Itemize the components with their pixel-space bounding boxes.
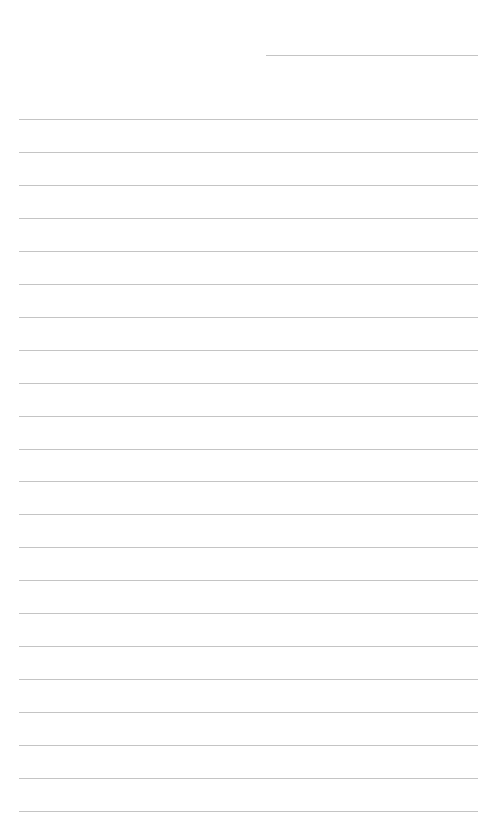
ruled-line bbox=[19, 152, 478, 153]
ruled-line bbox=[19, 119, 478, 120]
ruled-line bbox=[19, 449, 478, 450]
ruled-line bbox=[19, 284, 478, 285]
header-date-line bbox=[266, 55, 478, 56]
ruled-line bbox=[19, 185, 478, 186]
ruled-line bbox=[19, 481, 478, 482]
notebook-page bbox=[0, 0, 493, 837]
ruled-line bbox=[19, 514, 478, 515]
ruled-line bbox=[19, 251, 478, 252]
ruled-line bbox=[19, 547, 478, 548]
ruled-line bbox=[19, 218, 478, 219]
ruled-line bbox=[19, 317, 478, 318]
ruled-line bbox=[19, 745, 478, 746]
ruled-line bbox=[19, 416, 478, 417]
ruled-line bbox=[19, 778, 478, 779]
ruled-line bbox=[19, 613, 478, 614]
ruled-line bbox=[19, 811, 478, 812]
ruled-line bbox=[19, 383, 478, 384]
ruled-line bbox=[19, 580, 478, 581]
ruled-line bbox=[19, 646, 478, 647]
ruled-line bbox=[19, 712, 478, 713]
ruled-line bbox=[19, 350, 478, 351]
ruled-line bbox=[19, 679, 478, 680]
